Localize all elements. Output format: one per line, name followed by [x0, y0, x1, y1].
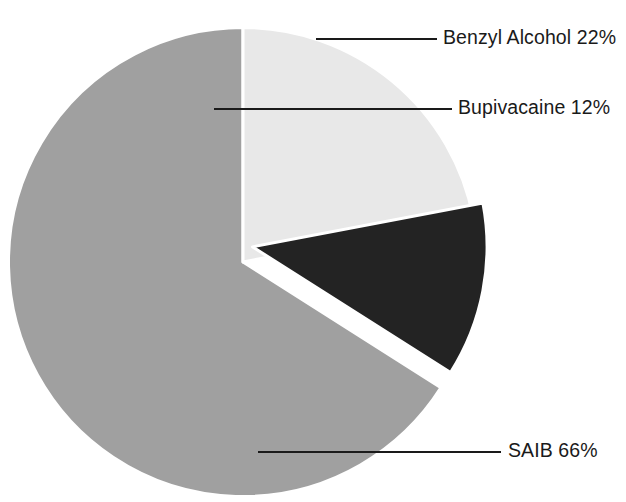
slice-label-benzyl-alcohol: Benzyl Alcohol 22% — [443, 28, 616, 48]
slice-label-saib: SAIB 66% — [508, 441, 598, 461]
pie-chart-figure: Benzyl Alcohol 22% Bupivacaine 12% SAIB … — [0, 0, 626, 502]
pie-chart-svg — [0, 0, 626, 502]
pie-slices — [8, 28, 487, 497]
slice-label-bupivacaine: Bupivacaine 12% — [458, 98, 610, 118]
